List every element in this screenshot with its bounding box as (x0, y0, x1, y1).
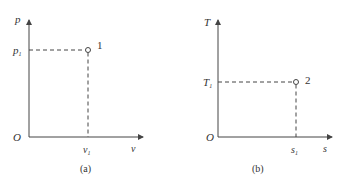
x-axis-label: v (131, 143, 136, 154)
origin-label: O (13, 131, 21, 143)
point-label: 1 (97, 39, 103, 51)
origin-label: O (206, 131, 214, 143)
y-tick-label: T1 (203, 76, 212, 89)
panel-a-pv-diagram: p p1 1 O v1 v (a) (12, 13, 143, 175)
x-axis-label: s (323, 143, 327, 154)
x-tick-label: s1 (291, 144, 298, 156)
panel-b-ts-diagram: T T1 2 O s1 s (b) (203, 16, 332, 175)
y-tick-label: p1 (12, 44, 22, 57)
panel-caption: (b) (252, 163, 264, 175)
diagram-canvas: p p1 1 O v1 v (a) T T1 2 O s1 s (b) (0, 0, 339, 186)
point-label: 2 (305, 74, 311, 86)
panel-caption: (a) (80, 163, 91, 175)
y-axis-label: T (204, 16, 211, 28)
x-tick-label: v1 (83, 144, 90, 156)
y-axis-label: p (14, 13, 21, 25)
state-point-2 (294, 80, 299, 85)
state-point-1 (86, 48, 91, 53)
